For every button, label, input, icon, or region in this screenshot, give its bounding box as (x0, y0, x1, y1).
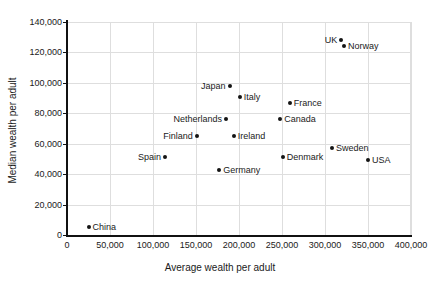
data-point-label: Norway (348, 42, 379, 51)
gridline-vertical (282, 22, 283, 235)
y-axis-title: Median wealth per adult (7, 46, 18, 216)
data-point-label: Germany (223, 166, 260, 175)
plot-area (67, 22, 411, 235)
data-point-label: Spain (81, 153, 161, 162)
y-axis-tick-mark (63, 144, 66, 145)
scatter-chart: Median wealth per adult Average wealth p… (0, 0, 440, 286)
plot-frame-right (410, 22, 411, 235)
data-point-label: Japan (146, 82, 226, 91)
y-axis-tick-mark (63, 113, 66, 114)
y-axis-tick-mark (63, 52, 66, 53)
y-axis-tick-label: 80,000 (0, 109, 62, 118)
data-point-label: Denmark (287, 153, 324, 162)
gridline-vertical (110, 22, 111, 235)
y-axis-tick-mark (63, 205, 66, 206)
y-axis-tick-label: 0 (0, 231, 62, 240)
y-axis-tick-label: 60,000 (0, 140, 62, 149)
data-point[interactable] (232, 134, 236, 138)
data-point-label: France (294, 99, 322, 108)
gridline-vertical (239, 22, 240, 235)
y-axis-tick-label: 100,000 (0, 79, 62, 88)
data-point[interactable] (288, 101, 292, 105)
data-point[interactable] (87, 225, 91, 229)
plot-frame-top (67, 22, 411, 23)
data-point-label: China (93, 223, 117, 232)
y-axis-tick-mark (63, 83, 66, 84)
data-point[interactable] (228, 84, 232, 88)
data-point-label: Italy (244, 93, 261, 102)
y-axis-tick-mark (63, 174, 66, 175)
y-axis-tick-label: 40,000 (0, 170, 62, 179)
gridline-horizontal (67, 205, 411, 206)
gridline-horizontal (67, 52, 411, 53)
gridline-vertical (411, 22, 412, 235)
data-point-label: Netherlands (142, 115, 222, 124)
data-point-label: USA (372, 156, 391, 165)
y-axis-tick-label: 140,000 (0, 18, 62, 27)
data-point[interactable] (195, 134, 199, 138)
data-point[interactable] (238, 95, 242, 99)
x-axis-title: Average wealth per adult (0, 262, 440, 273)
y-axis-tick-mark (63, 235, 66, 236)
y-axis-tick-mark (63, 22, 66, 23)
data-point-label: Canada (284, 115, 316, 124)
x-axis-line (66, 235, 412, 237)
data-point-label: Sweden (336, 144, 369, 153)
y-axis-tick-label: 120,000 (0, 48, 62, 57)
data-point[interactable] (217, 168, 221, 172)
data-point-label: Ireland (238, 132, 266, 141)
gridline-vertical (153, 22, 154, 235)
gridline-vertical (368, 22, 369, 235)
y-axis-line (66, 20, 68, 237)
y-axis-tick-label: 20,000 (0, 201, 62, 210)
gridline-horizontal (67, 113, 411, 114)
data-point-label: Finland (113, 132, 193, 141)
data-point-label: UK (257, 36, 337, 45)
gridline-horizontal (67, 83, 411, 84)
gridline-vertical (196, 22, 197, 235)
gridline-vertical (325, 22, 326, 235)
x-axis-tick-label: 400,000 (384, 241, 438, 250)
